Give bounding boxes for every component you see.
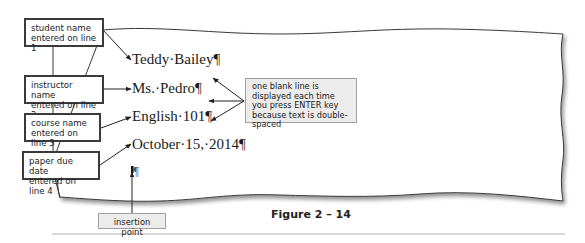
callout-double-spacing: one blank line is displayed each time yo… [245, 78, 357, 123]
label-due-date: paper due date entered on line 4 [22, 151, 100, 180]
doc-line-due-date: October·15,·2014¶ [132, 136, 246, 153]
label-instructor-name: instructor name entered on line 2 [24, 75, 104, 104]
figure-caption: Figure 2 – 14 [271, 208, 351, 221]
label-course-name: course name entered on line 3 [24, 113, 101, 142]
insertion-point-label: insertion point [98, 213, 166, 229]
doc-line-empty-paragraph: ¶ [133, 163, 139, 179]
doc-line-student-name: Teddy·Bailey¶ [132, 51, 220, 68]
doc-line-course-name: English·101¶ [132, 108, 212, 125]
doc-line-instructor-name: Ms.·Pedro¶ [132, 80, 202, 97]
label-student-name: student name entered on line 1 [24, 18, 104, 47]
